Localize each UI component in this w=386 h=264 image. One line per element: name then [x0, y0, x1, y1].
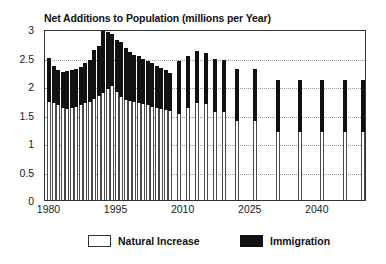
bar-segment-immigration — [65, 71, 69, 109]
bar-2050 — [361, 80, 365, 200]
bar-segment-natural-increase — [56, 105, 60, 200]
bar-segment-immigration — [119, 42, 123, 98]
bar-segment-natural-increase — [168, 111, 172, 200]
bar-segment-immigration — [186, 56, 190, 108]
y-axis: 00.511.522.53 — [0, 30, 40, 201]
bar-segment-immigration — [276, 80, 280, 132]
bar-segment-immigration — [213, 59, 217, 111]
y-tick-label: 1 — [28, 138, 34, 150]
bar-segment-natural-increase — [204, 104, 208, 200]
bar-segment-natural-increase — [320, 132, 324, 200]
bar-1996 — [119, 42, 123, 200]
bar-segment-immigration — [92, 50, 96, 99]
plot-area — [44, 30, 366, 201]
x-tick-label: 2025 — [238, 203, 261, 215]
bar-segment-natural-increase — [276, 132, 280, 200]
bar-segment-immigration — [235, 69, 239, 121]
bar-segment-immigration — [222, 60, 226, 112]
bar-1994 — [110, 34, 114, 200]
bar-segment-immigration — [159, 68, 163, 109]
bar-segment-immigration — [204, 53, 208, 104]
bar-segment-immigration — [168, 73, 172, 111]
bar-segment-immigration — [343, 80, 347, 132]
bar-1986 — [74, 69, 78, 200]
bar-segment-natural-increase — [159, 109, 163, 200]
bar-segment-immigration — [70, 70, 74, 108]
bar-2031 — [276, 80, 280, 200]
bar-1981 — [52, 65, 56, 200]
bar-segment-immigration — [47, 58, 51, 102]
bar-2001 — [141, 59, 145, 200]
bar-1997 — [124, 48, 128, 200]
bar-2003 — [150, 63, 154, 200]
bar-2046 — [343, 80, 347, 200]
bar-segment-immigration — [320, 80, 324, 132]
bar-2015 — [204, 53, 208, 200]
bar-segment-immigration — [52, 66, 56, 104]
bar-segment-immigration — [141, 59, 145, 105]
bar-segment-natural-increase — [155, 108, 159, 200]
y-tick-label: 2.5 — [19, 53, 34, 65]
bar-segment-immigration — [110, 34, 114, 86]
bars-layer — [45, 31, 365, 200]
bar-2013 — [195, 51, 199, 200]
chart-title: Net Additions to Population (millions pe… — [44, 12, 271, 24]
bar-1983 — [61, 72, 65, 200]
bar-segment-immigration — [74, 69, 78, 107]
bar-segment-immigration — [124, 48, 128, 99]
bar-segment-natural-increase — [97, 96, 101, 200]
y-tick-label: 0 — [28, 195, 34, 207]
bar-segment-immigration — [195, 51, 199, 103]
bar-1991 — [97, 46, 101, 200]
bar-segment-immigration — [298, 80, 302, 132]
bar-segment-natural-increase — [128, 101, 132, 200]
net-additions-population-chart: Net Additions to Population (millions pe… — [0, 0, 386, 264]
bar-segment-natural-increase — [132, 102, 136, 200]
bar-segment-natural-increase — [52, 103, 56, 200]
bar-segment-natural-increase — [222, 112, 226, 200]
bar-2022 — [235, 69, 239, 200]
bar-segment-natural-increase — [83, 103, 87, 200]
x-tick-label: 2040 — [305, 203, 328, 215]
bar-1980 — [47, 58, 51, 200]
bar-2004 — [155, 65, 159, 200]
bar-2009 — [177, 61, 181, 200]
bar-segment-immigration — [101, 30, 105, 93]
bar-segment-natural-increase — [137, 103, 141, 200]
bar-segment-natural-increase — [141, 104, 145, 200]
bar-1990 — [92, 50, 96, 200]
bar-segment-immigration — [88, 60, 92, 102]
bar-2002 — [146, 61, 150, 200]
bar-1985 — [70, 70, 74, 200]
bar-1989 — [88, 60, 92, 200]
bar-segment-natural-increase — [61, 108, 65, 200]
y-tick-label: 2 — [28, 81, 34, 93]
legend-label-immigration: Immigration — [270, 235, 330, 247]
bar-segment-natural-increase — [88, 102, 92, 200]
bar-segment-natural-increase — [186, 108, 190, 200]
bar-segment-immigration — [150, 63, 154, 106]
bar-1982 — [56, 70, 60, 200]
bar-segment-natural-increase — [74, 107, 78, 200]
bar-2017 — [213, 59, 217, 200]
bar-2019 — [222, 60, 226, 200]
bar-segment-natural-increase — [79, 105, 83, 200]
bar-2000 — [137, 56, 141, 200]
bar-segment-natural-increase — [101, 93, 105, 200]
legend-item-natural: Natural Increase — [88, 232, 200, 250]
bar-segment-immigration — [137, 56, 141, 103]
bar-segment-immigration — [146, 61, 150, 105]
bar-segment-natural-increase — [70, 108, 74, 200]
bar-1998 — [128, 52, 132, 200]
bar-segment-immigration — [115, 40, 119, 91]
bar-segment-natural-increase — [110, 86, 114, 200]
bar-1984 — [65, 71, 69, 200]
bar-2007 — [168, 73, 172, 200]
bar-1993 — [106, 32, 110, 200]
legend-label-natural: Natural Increase — [118, 235, 200, 247]
bar-segment-natural-increase — [361, 132, 365, 200]
bar-1988 — [83, 63, 87, 200]
legend-swatch-immigration — [240, 235, 263, 247]
bar-segment-natural-increase — [150, 107, 154, 200]
bar-2005 — [159, 68, 163, 200]
